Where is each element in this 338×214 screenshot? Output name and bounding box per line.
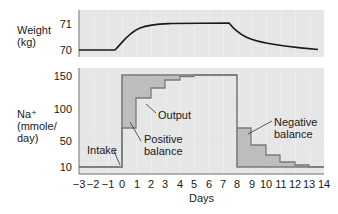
annotation-negative-line2: balance [274, 128, 317, 140]
annotation-output: Output [158, 109, 191, 121]
annotation-intake: Intake [87, 144, 117, 156]
annotation-positive-line1: Positive [144, 133, 183, 145]
annotation-positive-line2: balance [144, 145, 183, 157]
annotation-positive-balance: Positive balance [144, 133, 183, 157]
x-tick: 14 [314, 178, 334, 190]
x-axis-title: Days [189, 192, 214, 204]
annotation-negative-balance: Negative balance [274, 116, 317, 140]
annotation-negative-line1: Negative [274, 116, 317, 128]
